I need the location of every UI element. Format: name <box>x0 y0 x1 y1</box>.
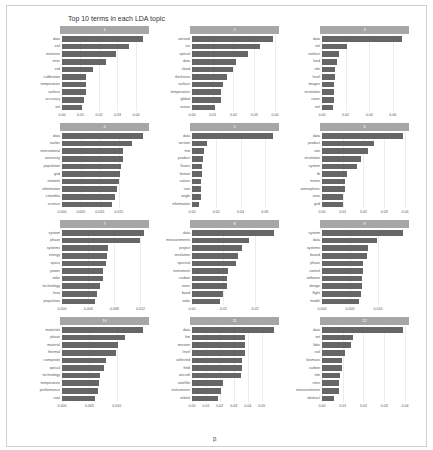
gridline <box>363 326 364 402</box>
term-label: resolution <box>280 156 320 160</box>
term-label: aerosol <box>150 37 190 41</box>
facet-strip: 8 <box>190 220 279 228</box>
term-label: area <box>280 194 320 198</box>
facet-strip: 10 <box>60 317 149 325</box>
bar <box>192 44 260 50</box>
bar <box>322 350 345 356</box>
gridline <box>248 326 249 402</box>
term-label: university <box>20 156 60 160</box>
bar <box>62 186 117 192</box>
term-label: tb <box>280 172 320 176</box>
bar <box>62 82 86 88</box>
gridline <box>405 326 406 402</box>
bar <box>322 51 339 57</box>
bar <box>322 268 363 274</box>
bar <box>192 51 248 57</box>
term-label: resolution <box>280 90 320 94</box>
bar <box>322 358 342 364</box>
facet-topic-5: 50.000.020.040.06dataversionmwproductflu… <box>150 123 270 217</box>
bar <box>322 327 403 333</box>
bar <box>192 245 242 251</box>
term-label: biomass <box>280 358 320 362</box>
term-label: network <box>20 179 60 183</box>
term-label: km <box>150 335 190 339</box>
facet-topic-3: 30.000.020.040.06datasetsurfacelandsitel… <box>280 26 400 120</box>
x-tick-label: 0.00 <box>189 210 196 214</box>
bar <box>62 245 108 251</box>
x-tick-label: 0.000 <box>58 404 67 408</box>
x-tick-label: 0.010 <box>95 210 104 214</box>
term-label: accuracy <box>20 97 60 101</box>
bar <box>322 133 403 139</box>
term-label: carbon <box>280 366 320 370</box>
bar <box>62 179 119 185</box>
x-tick-label: 0.02 <box>360 404 367 408</box>
term-label: images <box>280 82 320 86</box>
bar <box>192 373 241 379</box>
bar <box>62 365 104 371</box>
term-label: ice <box>150 44 190 48</box>
term-label: surface <box>20 90 60 94</box>
x-tick-label: 0.02 <box>342 113 349 117</box>
bar <box>322 335 353 341</box>
bar <box>322 97 334 103</box>
bar <box>62 268 103 274</box>
bar <box>62 327 143 333</box>
bar <box>192 261 236 267</box>
term-label: product <box>150 156 190 160</box>
term-label: rain <box>280 149 320 153</box>
bar <box>192 67 233 73</box>
x-tick-label: 0.06 <box>389 113 396 117</box>
x-tick-label: 0.005 <box>85 404 94 408</box>
bar <box>322 342 351 348</box>
term-label: design <box>280 284 320 288</box>
x-tick-label: 0.000 <box>58 307 67 311</box>
term-label: measurements <box>280 388 320 392</box>
bar <box>192 156 203 162</box>
term-label: performance <box>20 388 60 392</box>
term-label: net <box>280 105 320 109</box>
term-label: technology <box>20 284 60 288</box>
term-label: optical <box>20 366 60 370</box>
bar <box>322 67 335 73</box>
bar <box>192 186 201 192</box>
term-label: atmospheric <box>280 187 320 191</box>
bar <box>62 36 143 42</box>
term-label: energy <box>20 253 60 257</box>
plot-area <box>192 35 277 111</box>
facet-topic-12: 120.000.010.020.030.04datasetlidarsoilbi… <box>280 317 400 411</box>
term-label: mw <box>150 149 190 153</box>
term-label: coat <box>20 396 60 400</box>
term-label: spectral <box>150 261 190 265</box>
bar <box>192 179 201 185</box>
gridline <box>405 132 406 208</box>
term-label: thermal <box>20 350 60 354</box>
bar <box>62 141 132 147</box>
x-tick-label: 0.03 <box>114 113 121 117</box>
x-axis-label: β <box>213 436 216 442</box>
term-label: product <box>280 141 320 145</box>
x-tick-label: 0.02 <box>216 404 223 408</box>
term-label: columbia <box>20 194 60 198</box>
gridline <box>378 229 379 305</box>
x-tick-label: 0.04 <box>366 113 373 117</box>
plot-area <box>62 229 147 305</box>
bar <box>192 202 199 208</box>
x-tick-label: 0.04 <box>237 210 244 214</box>
term-label: measurements <box>150 238 190 242</box>
x-tick-label: 0.000 <box>58 210 67 214</box>
x-tick-label: 0.03 <box>230 404 237 408</box>
x-tick-label: 0.010 <box>112 404 121 408</box>
bar <box>192 342 245 348</box>
facet-topic-7: 70.0000.0040.0080.012systemphasesystemse… <box>20 220 140 314</box>
bar <box>322 238 377 244</box>
term-label: surface <box>280 52 320 56</box>
bar <box>192 358 242 364</box>
bar <box>322 283 362 289</box>
term-label: space <box>20 261 60 265</box>
term-label: surface <box>150 82 190 86</box>
term-label: data <box>280 134 320 138</box>
bar <box>192 276 227 282</box>
term-label: set <box>280 44 320 48</box>
gridline <box>255 229 256 305</box>
